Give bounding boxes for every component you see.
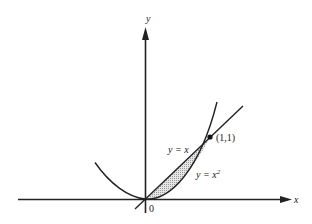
y-axis-arrow-icon [142,27,149,40]
y-axis-label: y [145,13,151,24]
origin-label: 0 [149,203,154,214]
x-axis-arrow-icon [280,196,292,203]
intersection-point [207,134,212,139]
parabola-label-exponent: 2 [217,168,221,176]
area-between-curves-diagram: y x 0 (1,1) y = x y = x2 [0,0,312,224]
line-y-equals-x [135,106,243,209]
parabola-label-base: y = x [195,169,217,180]
line-label: y = x [167,144,189,155]
x-axis-label: x [293,194,299,205]
parabola-label: y = x2 [195,168,221,180]
point-label: (1,1) [216,132,235,144]
